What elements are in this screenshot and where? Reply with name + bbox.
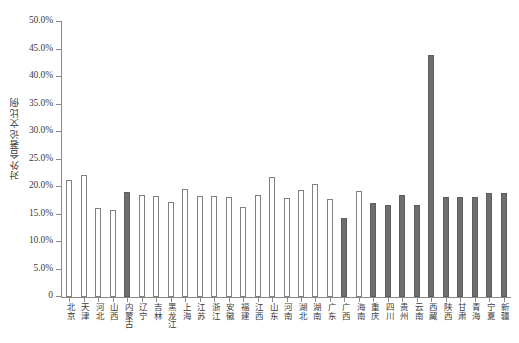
y-tick-label: 35.0% bbox=[1, 98, 53, 108]
bar bbox=[168, 202, 174, 297]
bar bbox=[457, 197, 463, 297]
y-tick-label: 0 bbox=[1, 290, 53, 300]
x-tick-label: 山东 bbox=[268, 303, 277, 320]
x-tick-mark bbox=[185, 297, 186, 302]
bar bbox=[226, 197, 232, 297]
x-tick-mark bbox=[301, 297, 302, 302]
x-tick-label: 北京 bbox=[65, 303, 74, 320]
x-tick-mark bbox=[171, 297, 172, 302]
x-tick-label: 湖南 bbox=[311, 303, 320, 320]
x-tick-mark bbox=[504, 297, 505, 302]
y-tick-label: 25.0% bbox=[1, 153, 53, 163]
x-tick-label: 四川 bbox=[383, 303, 392, 320]
x-tick-label: 安徽 bbox=[224, 303, 233, 320]
y-tick-label: 30.0% bbox=[1, 125, 53, 135]
x-tick-mark bbox=[69, 297, 70, 302]
x-tick-mark bbox=[243, 297, 244, 302]
y-tick-label: 50.0% bbox=[1, 15, 53, 25]
x-tick-mark bbox=[127, 297, 128, 302]
x-tick-label: 重庆 bbox=[369, 303, 378, 320]
bar bbox=[182, 189, 188, 297]
bar bbox=[385, 205, 391, 297]
x-tick-mark bbox=[402, 297, 403, 302]
bar bbox=[110, 210, 116, 297]
x-tick-mark bbox=[156, 297, 157, 302]
bar bbox=[356, 191, 362, 297]
x-tick-mark bbox=[84, 297, 85, 302]
x-tick-label: 海南 bbox=[354, 303, 363, 320]
x-tick-mark bbox=[229, 297, 230, 302]
y-tick-label: 5.0% bbox=[1, 263, 53, 273]
bar bbox=[81, 175, 87, 297]
plot-area bbox=[62, 22, 511, 297]
bar bbox=[341, 218, 347, 297]
x-tick-label: 河北 bbox=[94, 303, 103, 320]
x-tick-label: 内蒙古 bbox=[123, 303, 132, 329]
bar bbox=[269, 177, 275, 297]
bar bbox=[284, 198, 290, 297]
x-tick-label: 西藏 bbox=[427, 303, 436, 320]
x-tick-mark bbox=[344, 297, 345, 302]
x-tick-label: 天津 bbox=[79, 303, 88, 320]
x-tick-label: 云南 bbox=[412, 303, 421, 320]
y-tick-label: 10.0% bbox=[1, 235, 53, 245]
x-tick-label: 辽宁 bbox=[137, 303, 146, 320]
bar bbox=[298, 190, 304, 297]
bar bbox=[327, 199, 333, 297]
x-tick-mark bbox=[489, 297, 490, 302]
x-tick-label: 宁夏 bbox=[485, 303, 494, 320]
bar bbox=[370, 203, 376, 297]
bar bbox=[139, 195, 145, 297]
y-axis-title: 对外合著论文比例 bbox=[10, 97, 24, 180]
bar bbox=[255, 195, 261, 297]
bar bbox=[95, 208, 101, 297]
y-tick-label: 45.0% bbox=[1, 43, 53, 53]
bar-chart: 对外合著论文比例 50.0%45.0%40.0%35.0%30.0%25.0%2… bbox=[0, 0, 519, 343]
x-tick-label: 上海 bbox=[181, 303, 190, 320]
x-tick-label: 河南 bbox=[282, 303, 291, 320]
bar bbox=[312, 184, 318, 297]
x-tick-mark bbox=[258, 297, 259, 302]
bar bbox=[211, 196, 217, 297]
x-tick-mark bbox=[431, 297, 432, 302]
x-tick-mark bbox=[200, 297, 201, 302]
x-tick-label: 甘肃 bbox=[456, 303, 465, 320]
x-tick-label: 福建 bbox=[239, 303, 248, 320]
x-tick-label: 山西 bbox=[108, 303, 117, 320]
x-tick-mark bbox=[113, 297, 114, 302]
x-tick-label: 贵州 bbox=[398, 303, 407, 320]
bar bbox=[240, 207, 246, 297]
x-tick-mark bbox=[417, 297, 418, 302]
bar bbox=[486, 193, 492, 298]
x-tick-label: 浙江 bbox=[210, 303, 219, 320]
bar bbox=[428, 55, 434, 297]
x-tick-mark bbox=[373, 297, 374, 302]
y-tick-label: 40.0% bbox=[1, 70, 53, 80]
x-tick-label: 江苏 bbox=[195, 303, 204, 320]
x-tick-mark bbox=[388, 297, 389, 302]
bar bbox=[399, 195, 405, 297]
x-tick-label: 广东 bbox=[325, 303, 334, 320]
bar bbox=[501, 193, 507, 298]
bar bbox=[414, 205, 420, 297]
x-tick-mark bbox=[287, 297, 288, 302]
bar bbox=[472, 197, 478, 297]
x-tick-label: 吉林 bbox=[152, 303, 161, 320]
bar bbox=[443, 197, 449, 297]
x-tick-mark bbox=[460, 297, 461, 302]
x-tick-label: 湖北 bbox=[296, 303, 305, 320]
x-tick-mark bbox=[98, 297, 99, 302]
x-tick-mark bbox=[330, 297, 331, 302]
x-tick-label: 江西 bbox=[253, 303, 262, 320]
x-tick-mark bbox=[315, 297, 316, 302]
x-tick-mark bbox=[475, 297, 476, 302]
x-tick-label: 广西 bbox=[340, 303, 349, 320]
x-tick-label: 新疆 bbox=[499, 303, 508, 320]
x-tick-mark bbox=[142, 297, 143, 302]
bar bbox=[197, 196, 203, 297]
x-tick-mark bbox=[214, 297, 215, 302]
x-tick-label: 黑龙江 bbox=[166, 303, 175, 329]
x-tick-mark bbox=[446, 297, 447, 302]
x-tick-mark bbox=[359, 297, 360, 302]
x-tick-label: 陕西 bbox=[441, 303, 450, 320]
